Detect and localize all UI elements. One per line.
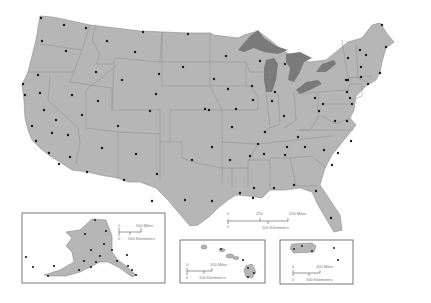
hawaii-scale-end-miles: 100 Miles: [210, 263, 227, 267]
main-scale-zero-km: 0: [227, 225, 229, 229]
pr-scale-end-miles: 100 Miles: [316, 265, 333, 269]
lake-superior: [238, 30, 288, 54]
hawaii-scale-zero-km: 0: [186, 276, 188, 280]
main-scale-end-km: 500 Kilometers: [262, 226, 289, 230]
pr-scale-zero-miles: 0: [292, 265, 294, 269]
alaska-scale-zero-miles: 0: [118, 224, 120, 228]
main-scale-zero-miles: 0: [227, 212, 229, 216]
hawaii-scale-end-km: 100 Kilometers: [199, 276, 226, 280]
main-scale-mid-miles: 250: [256, 212, 263, 216]
alaska-scale-zero-km: 0: [118, 237, 120, 241]
us-map: [0, 0, 431, 303]
alaska-scale-end-km: 500 Kilometers: [128, 237, 155, 241]
main-scale-bar: [228, 218, 288, 224]
pr-scale-zero-km: 0: [292, 278, 294, 282]
alaska-scale-end-miles: 500 Miles: [136, 224, 153, 228]
main-scale-end-miles: 500 Miles: [289, 212, 306, 216]
pr-scale-end-km: 100 Kilometers: [306, 278, 333, 282]
hawaii-scale-zero-miles: 0: [186, 263, 188, 267]
contiguous-us-land: [22, 16, 394, 232]
